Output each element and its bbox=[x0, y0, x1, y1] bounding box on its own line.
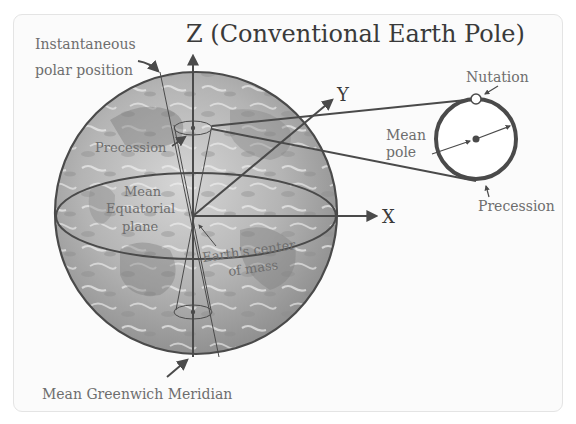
mean-pole-dot bbox=[473, 136, 480, 143]
mean-equatorial-label-line1: Mean bbox=[124, 184, 162, 199]
y-axis-label: Y bbox=[336, 84, 350, 105]
magnified-pole-circle bbox=[432, 94, 516, 179]
instantaneous-label-line2: polar position bbox=[35, 62, 133, 78]
precession-right-label: Precession bbox=[478, 198, 555, 214]
instantaneous-label-line1: Instantaneous bbox=[35, 36, 136, 52]
mean-equatorial-label-line3: plane bbox=[122, 219, 159, 234]
nutation-pointer-arrow bbox=[485, 86, 498, 94]
greenwich-pointer-arrow bbox=[167, 360, 187, 377]
precession-right-pointer-arrow bbox=[486, 186, 489, 197]
instantaneous-pointer-arrow bbox=[138, 61, 158, 71]
nutation-marker bbox=[471, 94, 481, 104]
precession-left-label: Precession bbox=[95, 140, 167, 155]
nutation-label: Nutation bbox=[466, 69, 529, 85]
z-axis-label: Z (Conventional Earth Pole) bbox=[186, 20, 525, 48]
mean-pole-label-line1: Mean bbox=[386, 127, 426, 143]
greenwich-label: Mean Greenwich Meridian bbox=[42, 386, 232, 402]
earth-coordinate-diagram: Z (Conventional Earth Pole) Y X Instanta… bbox=[0, 0, 576, 424]
mean-equatorial-label-line2: Equatorial bbox=[106, 201, 175, 216]
x-axis-label: X bbox=[382, 206, 395, 227]
mean-pole-label-line2: pole bbox=[386, 144, 416, 160]
